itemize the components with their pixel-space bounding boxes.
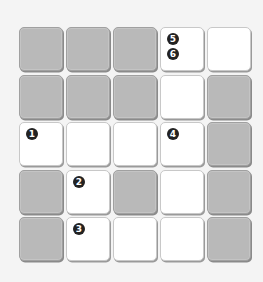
- clue-number-badge: 1: [26, 128, 38, 140]
- grid-cell-blocked: [207, 170, 251, 214]
- clue-number-badge: 6: [167, 48, 179, 60]
- grid-cell-blocked: [207, 75, 251, 119]
- grid-cell-blocked: [19, 217, 63, 261]
- grid-cell-open[interactable]: [160, 217, 204, 261]
- clue-number-group: 1: [26, 128, 38, 140]
- crossword-grid: 561423: [19, 27, 251, 261]
- grid-cell-blocked: [19, 27, 63, 71]
- grid-cell-open[interactable]: [66, 122, 110, 166]
- grid-cell-blocked: [66, 27, 110, 71]
- grid-cell-open[interactable]: 2: [66, 170, 110, 214]
- grid-cell-blocked: [19, 75, 63, 119]
- clue-number-group: 3: [73, 223, 85, 235]
- grid-cell-open[interactable]: [160, 170, 204, 214]
- grid-cell-blocked: [207, 217, 251, 261]
- grid-cell-blocked: [66, 75, 110, 119]
- grid-cell-open[interactable]: [113, 217, 157, 261]
- grid-cell-blocked: [113, 27, 157, 71]
- grid-cell-open[interactable]: [207, 27, 251, 71]
- grid-cell-blocked: [207, 122, 251, 166]
- clue-number-badge: 5: [167, 33, 179, 45]
- grid-cell-open[interactable]: 1: [19, 122, 63, 166]
- grid-cell-blocked: [19, 170, 63, 214]
- clue-number-badge: 3: [73, 223, 85, 235]
- clue-number-badge: 2: [73, 176, 85, 188]
- clue-number-group: 4: [167, 128, 179, 140]
- clue-number-group: 2: [73, 176, 85, 188]
- grid-cell-open[interactable]: [113, 122, 157, 166]
- grid-cell-open[interactable]: 56: [160, 27, 204, 71]
- grid-cell-open[interactable]: 4: [160, 122, 204, 166]
- clue-number-group: 56: [167, 33, 179, 60]
- grid-cell-blocked: [113, 75, 157, 119]
- grid-cell-open[interactable]: 3: [66, 217, 110, 261]
- grid-cell-blocked: [113, 170, 157, 214]
- grid-cell-open[interactable]: [160, 75, 204, 119]
- clue-number-badge: 4: [167, 128, 179, 140]
